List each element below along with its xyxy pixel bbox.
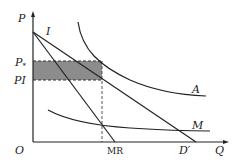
x-axis-label: Q [215,144,224,157]
monopoly-diagram: P I P* PI O MR D′ Q A M [0,0,240,165]
average-cost-label: A [191,83,200,96]
marginal-revenue-label: MR [107,146,123,156]
average-cost-curve [78,22,206,96]
shaded-profit-area [33,61,102,80]
p-star-label: P* [14,56,26,70]
demand-curve [33,32,196,142]
marginal-cost-curve [48,110,210,131]
demand-intercept-label: I [45,25,51,38]
demand-label: D′ [178,144,191,157]
p1-label: PI [13,74,26,87]
origin-label: O [15,144,24,157]
y-axis-arrow [31,11,35,17]
y-axis-label: P [17,12,26,25]
marginal-cost-label: M [191,119,204,132]
